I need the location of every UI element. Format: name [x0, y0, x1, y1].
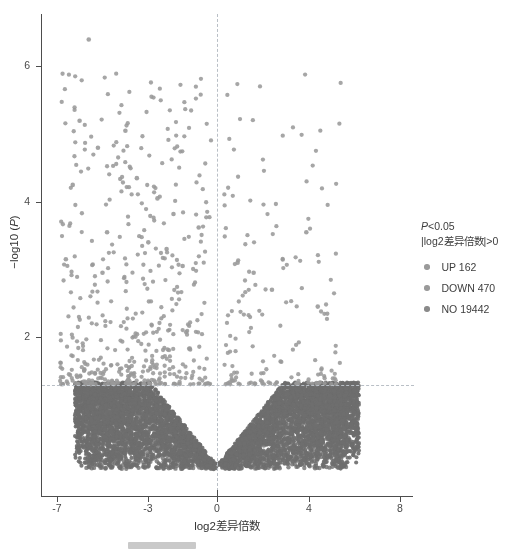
legend-label-no: NO 19442	[442, 303, 490, 315]
legend-title-pvalue: P<0.05	[421, 219, 525, 234]
legend-entry-list: UP 162 DOWN 470 NO 19442	[421, 256, 525, 319]
y-tick-label-2: 2	[8, 331, 30, 342]
legend-title-foldchange: |log2差异倍数|>0	[421, 234, 525, 249]
y-axis-title-italic-p: P	[8, 219, 20, 227]
legend-title-pvalue-rest: <0.05	[428, 220, 455, 232]
y-tick-mark-6	[36, 66, 41, 67]
y-axis-line	[41, 14, 42, 497]
legend-dot-up-icon	[424, 264, 430, 270]
x-tick-label-8: 8	[380, 503, 420, 514]
vertical-threshold-line	[217, 14, 218, 496]
x-tick-label-4: 4	[289, 503, 329, 514]
y-axis-title-suffix: )	[8, 215, 20, 219]
bottom-progress-bar[interactable]	[128, 542, 196, 549]
x-tick-label-0: 0	[197, 503, 237, 514]
legend-dot-down-icon	[424, 285, 430, 291]
legend-item-no[interactable]: NO 19442	[421, 298, 525, 319]
x-tick-label-neg7: -7	[37, 503, 77, 514]
x-tick-label-neg3: -3	[128, 503, 168, 514]
y-axis-title: −log10 (P)	[8, 152, 20, 332]
legend-title-italic-p: P	[421, 220, 428, 232]
y-tick-mark-4	[36, 202, 41, 203]
y-axis-title-prefix: −log10 (	[8, 227, 20, 269]
legend-item-down[interactable]: DOWN 470	[421, 277, 525, 298]
volcano-plot-figure: 2 4 6 -7 -3 0 4 8 log2差异倍数 −log10 (P) P<…	[0, 0, 525, 549]
legend-dot-no-icon	[424, 306, 430, 312]
legend-label-down: DOWN 470	[442, 282, 496, 294]
legend-label-up: UP 162	[442, 261, 477, 273]
legend: P<0.05 |log2差异倍数|>0 UP 162 DOWN 470 NO 1…	[421, 219, 525, 319]
x-axis-line	[41, 496, 413, 497]
x-axis-title: log2差异倍数	[41, 517, 413, 533]
horizontal-threshold-line	[42, 385, 414, 386]
x-tick-mark-0	[217, 490, 218, 502]
y-tick-label-6: 6	[8, 60, 30, 71]
y-tick-mark-2	[36, 337, 41, 338]
legend-item-up[interactable]: UP 162	[421, 256, 525, 277]
